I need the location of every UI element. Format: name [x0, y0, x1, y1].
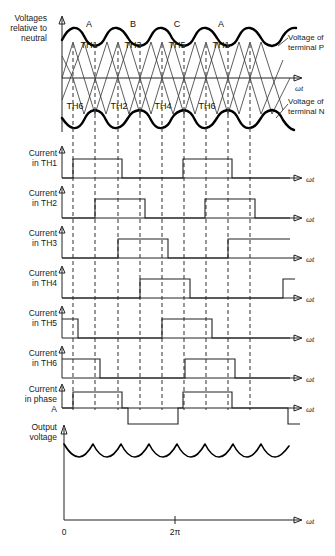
trace-axis-symbol-th5: ωt: [306, 334, 315, 344]
trace-label-phasea-line3: A: [51, 404, 57, 414]
output-origin-label: 0: [62, 527, 67, 537]
pulse-th4: [62, 279, 295, 298]
trace-current-phase-a: Current in phase A ωt: [25, 384, 315, 424]
trace-label-th1-line1: Current: [29, 148, 58, 158]
annotation-p-line1: Voltage of: [288, 33, 324, 42]
output-voltage-panel: Output voltage 0 2π ωt: [30, 422, 315, 537]
trace-axis-symbol-phasea: ωt: [306, 404, 315, 414]
trace-label-th5-line1: Current: [29, 308, 58, 318]
trace-label-th6-line1: Current: [29, 348, 58, 358]
trace-label-phasea-line1: Current: [29, 384, 58, 394]
trace-label-th3-line2: in TH3: [32, 238, 57, 248]
trace-label-th4-line1: Current: [29, 268, 58, 278]
trace-current-th6: Current in TH6 ωt: [29, 346, 315, 384]
top-axis-symbol: ωt: [295, 83, 304, 93]
output-ripple-wave: [64, 444, 289, 457]
trace-current-th1: Current in TH1 ωt: [29, 146, 315, 184]
envelope-terminal-n: [62, 110, 294, 130]
pulse-th6: [62, 359, 290, 378]
trace-current-th2: Current in TH2 ωt: [29, 186, 315, 224]
trace-current-th3: Current in TH3 ωt: [29, 226, 315, 264]
phase-marker-3: A: [218, 19, 224, 29]
trace-label-th4-line2: in TH4: [32, 278, 57, 288]
trace-axis-symbol-th3: ωt: [306, 254, 315, 264]
pulse-th5: [62, 319, 290, 338]
trace-axis-symbol-th6: ωt: [306, 374, 315, 384]
figure-root: Voltages relative to neutral ωt A B C A …: [0, 0, 335, 556]
top-ylabel-line3: neutral: [21, 33, 47, 43]
annotation-n-line2: terminal N: [288, 107, 325, 116]
trace-label-th2-line1: Current: [29, 188, 58, 198]
upper-thyristor-2: TH5: [168, 40, 185, 50]
trace-axis-symbol-th2: ωt: [306, 214, 315, 224]
trace-label-th1-line2: in TH1: [32, 158, 57, 168]
upper-thyristor-1: TH3: [124, 40, 141, 50]
output-label-line2: voltage: [30, 432, 58, 442]
trace-label-th6-line2: in TH6: [32, 358, 57, 368]
trace-label-th5-line2: in TH5: [32, 318, 57, 328]
lower-thyristor-3: TH6: [198, 101, 215, 111]
pulse-th2: [62, 199, 290, 218]
top-ylabel-line2: relative to: [10, 23, 47, 33]
phase-marker-1: B: [130, 19, 136, 29]
trace-axis-symbol-th4: ωt: [306, 294, 315, 304]
trace-label-th2-line2: in TH2: [32, 198, 57, 208]
pulse-th3: [62, 239, 290, 258]
lower-thyristor-1: TH2: [110, 101, 127, 111]
pulse-th1: [62, 159, 290, 178]
trace-current-th5: Current in TH5 ωt: [29, 306, 315, 344]
lower-thyristor-0: TH6: [66, 101, 83, 111]
waveform-figure: Voltages relative to neutral ωt A B C A …: [0, 0, 335, 556]
trace-label-th3-line1: Current: [29, 228, 58, 238]
annotation-n-line1: Voltage of: [288, 97, 324, 106]
top-panel: Voltages relative to neutral ωt A B C A …: [10, 13, 325, 132]
phase-marker-0: A: [86, 19, 92, 29]
output-tick-label: 2π: [170, 527, 181, 537]
phase-marker-2: C: [174, 19, 181, 29]
output-axis-symbol: ωt: [306, 516, 315, 526]
output-label-line1: Output: [31, 422, 57, 432]
trace-label-phasea-line2: in phase: [25, 394, 57, 404]
upper-thyristor-3: TH1: [212, 40, 229, 50]
trace-current-th4: Current in TH4 ωt: [29, 266, 315, 304]
trace-axis-symbol-th1: ωt: [306, 174, 315, 184]
annotation-p-line2: terminal P: [288, 43, 324, 52]
lower-thyristor-2: TH4: [154, 101, 171, 111]
top-ylabel-line1: Voltages: [14, 13, 47, 23]
